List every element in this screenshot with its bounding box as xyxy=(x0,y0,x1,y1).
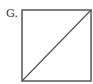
diagonal-line xyxy=(22,10,91,81)
square-with-diagonal-diagram xyxy=(0,0,93,84)
